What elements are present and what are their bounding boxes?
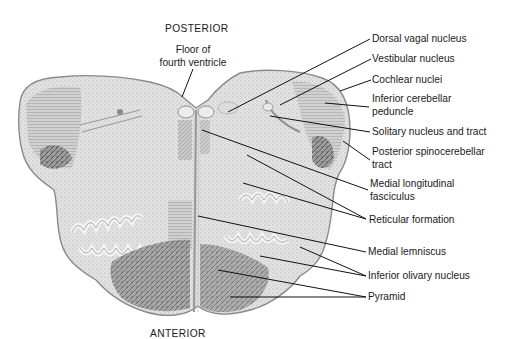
- label-line: fourth ventricle: [155, 57, 231, 70]
- label-line: Posterior spinocerebellar: [372, 146, 485, 159]
- label-line: Vestibular nucleus: [372, 53, 455, 66]
- medulla-diagram: POSTERIOR ANTERIOR Floor of fourth ventr…: [0, 0, 515, 339]
- orientation-anterior: ANTERIOR: [150, 328, 206, 339]
- label-line: Cochlear nuclei: [372, 74, 442, 87]
- label-line: Dorsal vagal nucleus: [372, 33, 467, 46]
- label-cochlear-nuclei: Cochlear nuclei: [372, 74, 442, 87]
- label-line: tract: [372, 159, 485, 172]
- leader-floor-fourth-ventricle: [182, 69, 193, 97]
- label-medial-lemniscus: Medial lemniscus: [368, 246, 446, 259]
- label-medial-longitudinal-fasciculus: Medial longitudinal fasciculus: [370, 178, 454, 203]
- leader-cochlear-nuclei: [340, 80, 371, 91]
- label-line: Pyramid: [368, 291, 405, 304]
- label-line: fasciculus: [370, 191, 454, 204]
- label-inferior-cerebellar-peduncle: Inferior cerebellar peduncle: [372, 93, 451, 118]
- label-dorsal-vagal-nucleus: Dorsal vagal nucleus: [372, 33, 467, 46]
- label-pyramid: Pyramid: [368, 291, 405, 304]
- label-posterior-spinocerebellar-tract: Posterior spinocerebellar tract: [372, 146, 485, 171]
- label-line: Floor of: [155, 44, 231, 57]
- orientation-posterior: POSTERIOR: [165, 23, 229, 34]
- label-line: Medial lemniscus: [368, 246, 446, 259]
- label-line: Inferior cerebellar: [372, 93, 451, 106]
- label-line: Reticular formation: [369, 214, 455, 227]
- label-line: peduncle: [372, 106, 451, 119]
- label-line: Solitary nucleus and tract: [372, 126, 486, 139]
- label-line: Inferior olivary nucleus: [368, 270, 470, 283]
- label-reticular-formation: Reticular formation: [369, 214, 455, 227]
- label-inferior-olivary-nucleus: Inferior olivary nucleus: [368, 270, 470, 283]
- label-floor-fourth-ventricle: Floor of fourth ventricle: [155, 44, 231, 69]
- label-line: Medial longitudinal: [370, 178, 454, 191]
- label-solitary-nucleus-tract: Solitary nucleus and tract: [372, 126, 486, 139]
- label-vestibular-nucleus: Vestibular nucleus: [372, 53, 455, 66]
